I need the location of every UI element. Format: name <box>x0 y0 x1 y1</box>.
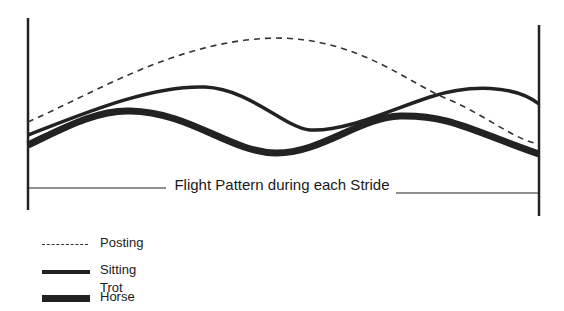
flight-pattern-diagram <box>0 0 564 311</box>
legend-label: Horse <box>100 288 135 306</box>
medium-line-swatch-icon <box>42 270 90 274</box>
dashed-line-swatch-icon <box>42 244 88 245</box>
thick-line-swatch-icon <box>42 295 90 302</box>
legend-label: Posting <box>100 234 143 252</box>
